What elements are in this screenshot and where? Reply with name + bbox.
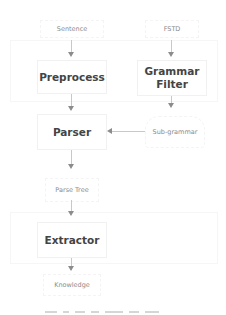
knowledge-text: Knowledge [54,281,90,289]
sub-grammar-label: Sub-grammar [145,116,205,148]
grammar-filter-text-line2: Filter [156,78,188,91]
fstd-text: FSTD [164,25,181,33]
grammar-filter-text-line1: Grammar [144,65,199,78]
arrow-down-icon [68,52,74,57]
arrow-left-icon [107,128,112,134]
sentence-label: Sentence [40,20,104,38]
arrow-down-icon [168,52,174,57]
arrow-down-icon [68,164,74,169]
arrow-down-icon [168,103,174,108]
edge-fstd-grammar-filter [171,40,172,52]
arrow-down-icon [68,266,74,271]
figure-caption-cutoff [45,311,185,314]
preprocess-text: Preprocess [39,71,105,84]
preprocess-box: Preprocess [37,60,107,94]
arrow-down-icon [68,106,74,111]
parse-tree-label: Parse Tree [45,178,99,202]
edge-subgrammar-parser [112,131,145,132]
edge-sentence-preprocess [71,40,72,52]
arrow-down-icon [68,211,74,216]
edge-preprocess-parser [71,94,72,106]
knowledge-label: Knowledge [43,274,101,296]
sub-grammar-text: Sub-grammar [153,128,198,136]
parser-text: Parser [53,126,91,139]
extractor-text: Extractor [45,234,100,247]
edge-parser-parse-tree [71,150,72,164]
grammar-filter-box: Grammar Filter [137,60,207,96]
fstd-label: FSTD [145,20,199,38]
extractor-box: Extractor [37,222,107,258]
parser-box: Parser [37,114,107,150]
sentence-text: Sentence [57,25,88,33]
parse-tree-text: Parse Tree [55,186,88,194]
